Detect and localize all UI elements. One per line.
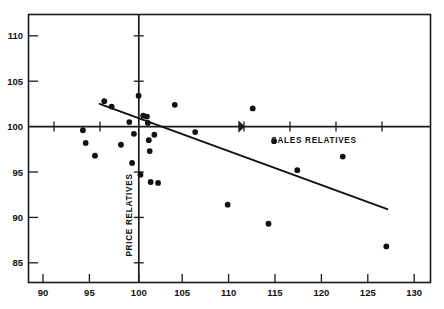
- y-axis-ticks: [29, 36, 38, 263]
- data-point: [118, 142, 124, 148]
- y-axis-title: PRICE RELATIVES: [125, 173, 134, 256]
- data-point: [80, 127, 86, 133]
- data-point: [83, 140, 89, 146]
- x-tick-label: 110: [221, 287, 236, 298]
- y-tick-label: 95: [12, 167, 23, 178]
- plot-frame: [29, 15, 431, 283]
- x-tick-label: 100: [131, 287, 147, 298]
- x-tick-label: 115: [267, 287, 283, 298]
- data-point: [136, 93, 142, 99]
- data-point: [151, 132, 157, 138]
- y-tick-label: 110: [8, 30, 23, 41]
- x-tick-labels: 90 95 100 105 110 115 120 125 130: [38, 287, 422, 298]
- y-tick-label: 100: [7, 121, 23, 132]
- data-point: [101, 98, 107, 104]
- x-tick-label: 130: [406, 287, 422, 298]
- plot-area: 90 95 100 105 110 115 120 125 130 110 10…: [0, 0, 444, 309]
- data-point: [192, 129, 198, 135]
- y-tick-label: 105: [7, 76, 24, 87]
- data-point: [109, 104, 115, 110]
- data-point: [155, 180, 161, 186]
- data-point: [126, 119, 132, 125]
- y-tick-label: 90: [12, 212, 23, 223]
- data-point: [138, 172, 144, 178]
- data-point: [340, 154, 346, 160]
- data-point: [144, 114, 150, 120]
- data-point: [383, 244, 389, 250]
- scatter-chart: 90 95 100 105 110 115 120 125 130 110 10…: [0, 0, 444, 309]
- data-point: [294, 167, 300, 173]
- x-tick-label: 125: [360, 287, 377, 298]
- data-point: [147, 148, 153, 154]
- x-tick-label: 95: [84, 287, 95, 298]
- data-point: [271, 138, 277, 144]
- data-point: [145, 120, 151, 126]
- data-point: [250, 106, 256, 112]
- data-point: [225, 202, 231, 208]
- x-tick-label: 105: [174, 287, 191, 298]
- data-point: [146, 137, 152, 143]
- x-axis-title: SALES RELATIVES: [271, 136, 356, 145]
- data-point: [129, 160, 135, 166]
- data-point: [172, 102, 178, 108]
- data-point: [266, 221, 272, 227]
- y-tick-labels: 110 105 100 95 90 85: [7, 30, 24, 268]
- data-point: [92, 153, 98, 159]
- x-axis-ticks: [43, 274, 414, 282]
- y-tick-label: 85: [12, 257, 23, 268]
- interior-axis-ticks: [54, 36, 382, 263]
- x-tick-label: 90: [38, 287, 49, 298]
- data-point: [131, 131, 137, 137]
- x-tick-label: 120: [313, 287, 329, 298]
- data-point: [148, 179, 154, 185]
